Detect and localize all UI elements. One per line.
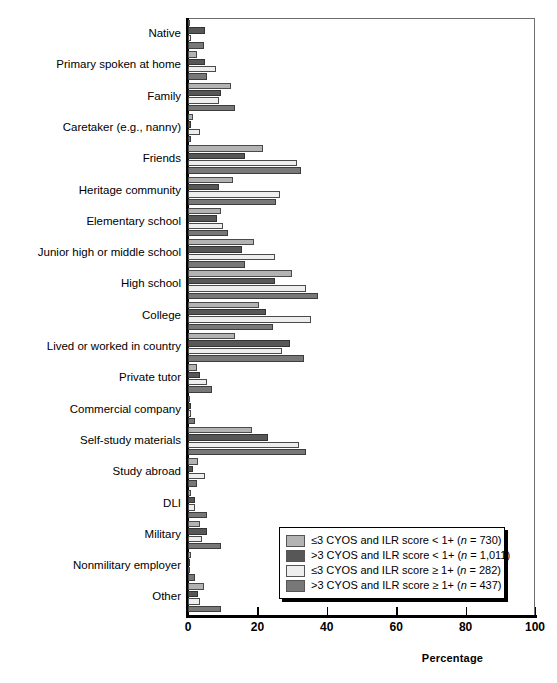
bar: [188, 199, 276, 205]
category-label: Commercial company: [0, 403, 181, 415]
category-label: Friends: [0, 152, 181, 164]
legend-label: ≤3 CYOS and ILR score < 1+ (n = 730): [311, 535, 501, 546]
category-label: College: [0, 309, 181, 321]
bar-group: [188, 83, 235, 113]
bar: [188, 184, 219, 190]
bar: [188, 105, 235, 111]
bar-group: [188, 552, 195, 582]
bar: [188, 480, 197, 486]
bar: [188, 136, 191, 142]
category-label: Family: [0, 90, 181, 102]
bar: [188, 418, 195, 424]
bar: [188, 324, 273, 330]
x-tick-label: 100: [525, 620, 545, 634]
legend-label: ≤3 CYOS and ILR score ≥ 1+ (n = 282): [311, 565, 501, 576]
bar: [188, 278, 275, 284]
bar: [188, 410, 191, 416]
legend-item[interactable]: ≤3 CYOS and ILR score < 1+ (n = 730): [286, 533, 497, 548]
bar: [188, 97, 219, 103]
bar: [188, 333, 235, 339]
bar: [188, 73, 207, 79]
bar: [188, 543, 221, 549]
bar: [188, 239, 254, 245]
bar: [188, 302, 259, 308]
x-tick-label: 60: [390, 620, 403, 634]
bar-group: [188, 145, 301, 175]
bar: [188, 35, 191, 41]
bar-group: [188, 521, 221, 551]
bar-group: [188, 583, 221, 613]
bar: [188, 521, 200, 527]
bar: [188, 167, 301, 173]
category-label: Study abroad: [0, 465, 181, 477]
category-label: Primary spoken at home: [0, 58, 181, 70]
bar: [188, 458, 198, 464]
legend-label: >3 CYOS and ILR score ≥ 1+ (n = 437): [311, 580, 501, 591]
x-tick: [327, 607, 328, 616]
category-label: Private tutor: [0, 371, 181, 383]
bar: [188, 403, 191, 409]
bar: [188, 90, 221, 96]
bar: [188, 434, 268, 440]
legend-item[interactable]: ≤3 CYOS and ILR score ≥ 1+ (n = 282): [286, 563, 497, 578]
bar: [188, 20, 190, 26]
bar: [188, 309, 266, 315]
category-label: Other: [0, 590, 181, 602]
bar: [188, 386, 212, 392]
category-label: Caretaker (e.g., nanny): [0, 121, 181, 133]
bar: [188, 528, 207, 534]
bar-group: [188, 208, 228, 238]
bar-group: [188, 270, 318, 300]
category-label: Nonmilitary employer: [0, 559, 181, 571]
x-axis-title: Percentage: [0, 652, 557, 664]
bar: [188, 285, 306, 291]
category-label: Junior high or middle school: [0, 246, 181, 258]
legend-swatch: [286, 580, 305, 592]
bar: [188, 153, 245, 159]
bar: [188, 59, 205, 65]
bar-group: [188, 396, 195, 426]
bar: [188, 372, 200, 378]
legend-swatch: [286, 550, 305, 562]
bar-group: [188, 239, 275, 269]
bar: [188, 559, 190, 565]
x-tick-label: 40: [320, 620, 333, 634]
x-tick-label: 20: [251, 620, 264, 634]
bar-group: [188, 333, 304, 363]
bar: [188, 591, 198, 597]
category-label: Heritage community: [0, 184, 181, 196]
bar: [188, 355, 304, 361]
bar: [188, 270, 292, 276]
legend-item[interactable]: >3 CYOS and ILR score ≥ 1+ (n = 437): [286, 578, 497, 593]
bar: [188, 567, 190, 573]
legend-item[interactable]: >3 CYOS and ILR score < 1+ (n = 1,011): [286, 548, 497, 563]
bar: [188, 114, 193, 120]
bar: [188, 254, 275, 260]
bar: [188, 208, 221, 214]
legend-swatch: [286, 535, 305, 547]
category-label: Elementary school: [0, 215, 181, 227]
bar: [188, 574, 195, 580]
bar: [188, 490, 191, 496]
bar: [188, 177, 233, 183]
bar: [188, 191, 280, 197]
x-axis-title-text: Percentage: [422, 652, 483, 664]
bar: [188, 396, 190, 402]
chart-legend: ≤3 CYOS and ILR score < 1+ (n = 730)>3 C…: [279, 527, 505, 599]
x-tick: [466, 607, 467, 616]
bar-group: [188, 302, 311, 332]
bar: [188, 316, 311, 322]
bar: [188, 230, 228, 236]
category-label: Military: [0, 528, 181, 540]
bar: [188, 246, 242, 252]
legend-items: ≤3 CYOS and ILR score < 1+ (n = 730)>3 C…: [286, 533, 497, 593]
bar: [188, 215, 217, 221]
bar: [188, 504, 195, 510]
x-tick-label: 80: [459, 620, 472, 634]
bar: [188, 121, 191, 127]
bar-group: [188, 114, 200, 144]
bar: [188, 66, 216, 72]
bar: [188, 427, 252, 433]
bar: [188, 512, 207, 518]
bar: [188, 51, 197, 57]
